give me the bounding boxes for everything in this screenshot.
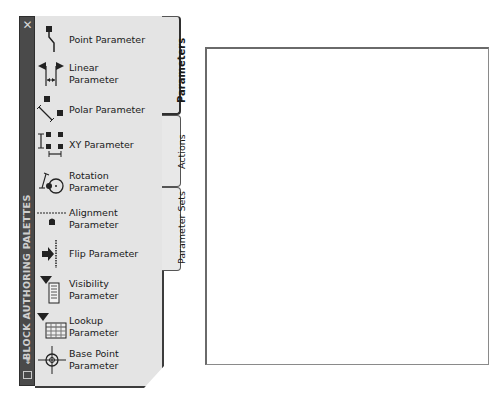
xy-parameter-icon (36, 129, 68, 161)
flip-parameter-icon (36, 238, 68, 270)
tool-label: Base PointParameter (69, 348, 119, 372)
point-parameter-icon (36, 24, 68, 56)
tool-label: Flip Parameter (69, 248, 138, 260)
tool-polar-parameter[interactable]: Polar Parameter (36, 94, 146, 126)
tab-parameters[interactable]: Parameters (162, 16, 181, 115)
tool-base-point-parameter[interactable]: Base PointParameter (36, 344, 146, 376)
tool-lookup-parameter[interactable]: Lookup Parameter (36, 311, 146, 343)
tool-label: Point Parameter (69, 34, 145, 46)
base-point-parameter-icon (36, 344, 68, 376)
tab-actions[interactable]: Actions (162, 115, 181, 187)
lookup-parameter-icon (36, 311, 68, 343)
tool-flip-parameter[interactable]: Flip Parameter (36, 238, 146, 270)
tool-label: Linear Parameter (69, 62, 146, 86)
alignment-parameter-icon (36, 203, 68, 235)
tool-visibility-parameter[interactable]: VisibilityParameter (36, 274, 146, 306)
tool-rotation-parameter[interactable]: RotationParameter (36, 166, 146, 198)
tool-label: Polar Parameter (69, 104, 145, 116)
drawing-area[interactable] (205, 47, 489, 365)
tool-linear-parameter[interactable]: Linear Parameter (36, 58, 146, 90)
rotation-parameter-icon (36, 166, 68, 198)
block-authoring-palette: ✕ BLOCK AUTHORING PALETTES ⇟ Point Param… (19, 16, 182, 390)
palette-title-bar[interactable]: ✕ BLOCK AUTHORING PALETTES ⇟ (19, 16, 35, 386)
tool-alignment-parameter[interactable]: AlignmentParameter (36, 203, 146, 235)
tool-label: AlignmentParameter (69, 207, 118, 231)
visibility-parameter-icon (36, 274, 68, 306)
tool-label: VisibilityParameter (69, 278, 118, 302)
palette-menu-icon[interactable] (23, 371, 32, 379)
close-icon[interactable]: ✕ (21, 19, 34, 31)
polar-parameter-icon (36, 94, 68, 126)
linear-parameter-icon (36, 58, 68, 90)
tool-label: RotationParameter (69, 170, 118, 194)
tool-label: XY Parameter (69, 139, 134, 151)
tool-label: Lookup Parameter (69, 315, 146, 339)
tool-xy-parameter[interactable]: XY Parameter (36, 129, 146, 161)
tab-parameter-sets[interactable]: Parameter Sets (162, 187, 181, 271)
tool-point-parameter[interactable]: Point Parameter (36, 24, 146, 56)
properties-icon[interactable]: ⇟ (23, 356, 33, 366)
